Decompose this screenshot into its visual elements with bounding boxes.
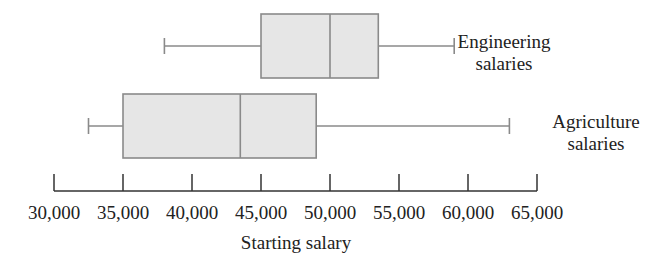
x-axis-tick-label: 45,000 bbox=[235, 202, 287, 223]
iqr-box bbox=[261, 14, 378, 78]
series-label: Engineering bbox=[458, 31, 551, 52]
chart-canvas: EngineeringsalariesAgriculturesalaries 3… bbox=[0, 0, 662, 261]
boxplot-series-engineering: Engineeringsalaries bbox=[164, 14, 551, 78]
x-axis-tick-label: 60,000 bbox=[442, 202, 494, 223]
iqr-box bbox=[123, 94, 316, 158]
boxplot-chart: EngineeringsalariesAgriculturesalaries 3… bbox=[0, 0, 662, 261]
boxplot-series-agriculture: Agriculturesalaries bbox=[89, 94, 640, 158]
x-axis-ticks: 30,00035,00040,00045,00050,00055,00060,0… bbox=[28, 174, 563, 223]
x-axis: 30,00035,00040,00045,00050,00055,00060,0… bbox=[28, 174, 563, 253]
x-axis-tick-label: 35,000 bbox=[97, 202, 149, 223]
series-label: salaries bbox=[568, 133, 625, 154]
x-axis-tick-label: 65,000 bbox=[511, 202, 563, 223]
series-label: salaries bbox=[476, 53, 533, 74]
x-axis-tick-label: 40,000 bbox=[166, 202, 218, 223]
x-axis-tick-label: 30,000 bbox=[28, 202, 80, 223]
x-axis-title: Starting salary bbox=[241, 232, 352, 253]
series-label: Agriculture bbox=[552, 111, 640, 132]
x-axis-tick-label: 50,000 bbox=[304, 202, 356, 223]
boxes-layer: EngineeringsalariesAgriculturesalaries bbox=[89, 14, 640, 158]
x-axis-tick-label: 55,000 bbox=[373, 202, 425, 223]
